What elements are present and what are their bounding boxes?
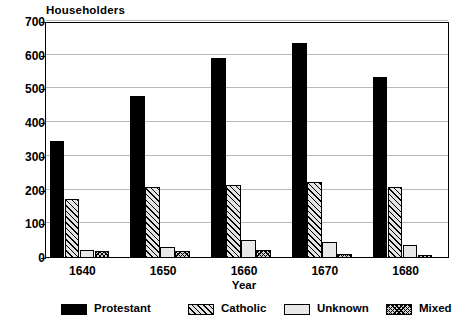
x-tick-label: 1650 [150,264,177,278]
legend-swatch-icon [386,304,412,315]
legend-label: Mixed [419,303,452,315]
x-tick-label: 1640 [69,264,96,278]
gridline [46,189,448,190]
y-tick-label: 0 [5,252,45,264]
y-axis-title: Householders [46,4,125,16]
legend-item-unknown[interactable]: Unknown [284,301,369,317]
legend-item-catholic[interactable]: Catholic [188,301,266,317]
legend-swatch-icon [188,304,214,315]
legend-item-protestant[interactable]: Protestant [61,301,151,317]
y-tick-mark [41,89,46,90]
y-axis: 0100200300400500600700 [0,22,45,258]
x-axis-title: Year [232,279,256,291]
gridline [46,155,448,156]
gridline [46,121,448,122]
gridline [46,54,448,55]
y-tick-mark [41,123,46,124]
legend-label: Protestant [94,303,151,315]
y-tick-mark [41,157,46,158]
y-tick-mark [41,22,46,23]
y-tick-label: 300 [5,151,45,163]
y-tick-mark [41,191,46,192]
x-tick-label: 1670 [311,264,338,278]
x-tick-label: 1660 [231,264,258,278]
x-tick-label: 1680 [392,264,419,278]
y-tick-label: 100 [5,218,45,230]
legend-label: Unknown [317,303,369,315]
legend-swatch-icon [284,304,310,315]
legend-item-mixed[interactable]: Mixed [386,301,452,317]
y-tick-mark [41,56,46,57]
y-tick-label: 400 [5,117,45,129]
legend-swatch-icon [61,304,87,315]
plot-area [45,22,449,258]
gridline [46,222,448,223]
legend-label: Catholic [221,303,266,315]
chart-legend: ProtestantCatholicUnknownMixed [45,301,449,321]
y-tick-label: 500 [5,83,45,95]
gridline [46,87,448,88]
gridline [46,20,448,21]
y-tick-label: 700 [5,16,45,28]
y-tick-label: 600 [5,50,45,62]
y-tick-mark [41,224,46,225]
bar-chart: Householders 0100200300400500600700 1640… [0,0,465,329]
x-axis: 16401650166016701680Year [45,258,449,282]
y-tick-label: 200 [5,185,45,197]
